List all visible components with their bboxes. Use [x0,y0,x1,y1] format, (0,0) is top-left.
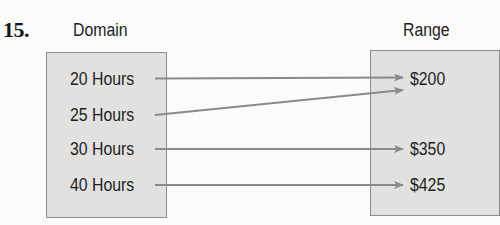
range-item: $350 [410,139,445,159]
arrow-25-hours-to-200 [155,90,403,115]
domain-item: 40 Hours [70,175,134,195]
domain-item: 30 Hours [70,139,134,159]
domain-title: Domain [73,20,128,41]
arrow-20-hours-to-200 [155,78,403,79]
range-title: Range [403,20,450,41]
domain-item: 25 Hours [70,105,134,125]
range-item: $200 [410,69,445,89]
domain-item: 20 Hours [70,69,134,89]
range-item: $425 [410,175,445,195]
problem-number: 15. [3,17,29,43]
